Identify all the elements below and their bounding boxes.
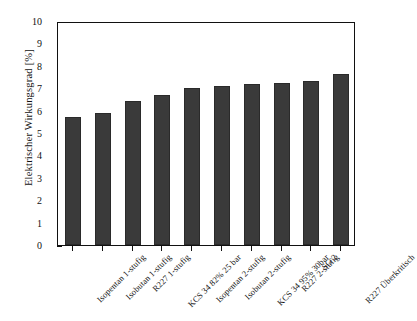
bar	[333, 74, 349, 245]
x-axis-tick	[102, 246, 103, 251]
x-axis-tick	[281, 246, 282, 251]
bar	[125, 101, 141, 245]
bar	[303, 81, 319, 245]
x-axis-tick	[310, 246, 311, 251]
x-axis-tick	[191, 246, 192, 251]
y-axis-tick-label: 1	[37, 217, 42, 230]
y-axis-tick-label: 10	[32, 15, 42, 28]
y-axis-tick-label: 9	[37, 37, 42, 50]
y-axis-tick-label: 0	[37, 239, 42, 252]
y-axis-tick-label: 4	[37, 149, 42, 162]
bar	[184, 88, 200, 245]
bar	[274, 83, 290, 245]
y-axis-title: Elektrischer Wirkungsgrad [%]	[23, 18, 34, 218]
y-axis-tick-label: 5	[37, 127, 42, 140]
y-axis-tick-label: 2	[37, 194, 42, 207]
x-axis-tick-label: R227 Überkritisch	[363, 252, 416, 305]
bar	[244, 84, 260, 245]
y-axis-tick-label: 8	[37, 60, 42, 73]
bar-series	[58, 23, 354, 245]
bar	[65, 117, 81, 245]
bar	[214, 86, 230, 245]
x-axis-tick	[132, 246, 133, 251]
x-axis-tick	[251, 246, 252, 251]
x-axis-tick	[221, 246, 222, 251]
x-axis-tick	[161, 246, 162, 251]
y-axis-tick-label: 7	[37, 82, 42, 95]
bar	[95, 113, 111, 245]
y-axis-tick-label: 3	[37, 172, 42, 185]
y-axis-tick-label: 6	[37, 105, 42, 118]
x-axis-tick	[72, 246, 73, 251]
bar	[154, 95, 170, 245]
plot-area	[57, 22, 355, 246]
x-axis-tick	[340, 246, 341, 251]
